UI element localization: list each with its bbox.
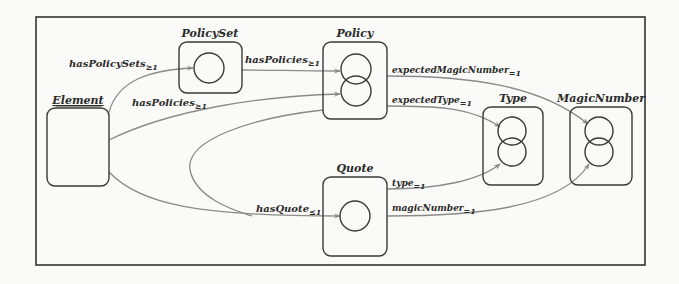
label-policyset: PolicySet xyxy=(181,27,239,40)
policyset-circle xyxy=(194,53,224,83)
node-magicnumber xyxy=(570,107,632,185)
edge-label-haspolicysets: hasPolicySets≥1 xyxy=(69,58,158,72)
policy-circle-bottom xyxy=(341,76,371,106)
type-circle-top xyxy=(498,117,526,145)
diagram-frame xyxy=(36,17,645,265)
edge-haspolicies-policyset xyxy=(242,70,340,71)
edge-hasquote-policy xyxy=(190,110,323,216)
type-circle-bottom xyxy=(498,138,526,166)
label-type: Type xyxy=(499,92,527,105)
node-type xyxy=(483,107,543,185)
magicnumber-circle-top xyxy=(585,117,613,145)
node-element xyxy=(47,108,109,186)
edge-label-haspolicies-2: hasPolicies≥1 xyxy=(132,97,207,111)
label-magicnumber: MagicNumber xyxy=(556,92,646,105)
node-policyset xyxy=(179,42,242,93)
edge-label-haspolicies-1: hasPolicies≥1 xyxy=(245,54,320,68)
quote-circle xyxy=(340,201,370,231)
shape-diagram: Element PolicySet Policy Type MagicNumbe… xyxy=(0,0,679,284)
edge-label-magicnumber: magicNumber=1 xyxy=(392,203,476,216)
label-element: Element xyxy=(51,94,103,107)
label-quote: Quote xyxy=(337,162,374,175)
label-policy: Policy xyxy=(336,27,375,40)
magicnumber-circle-bottom xyxy=(585,138,613,166)
